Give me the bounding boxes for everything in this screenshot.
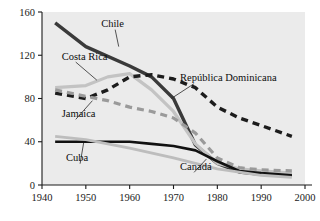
y-tick-label: 160 <box>19 7 35 18</box>
x-tick-label: 1980 <box>207 192 228 203</box>
series-label-canad: Canadá <box>180 161 212 172</box>
x-tick-label: 2000 <box>295 192 316 203</box>
y-axis-ticks: 04080120160 <box>19 7 42 191</box>
x-tick-label: 1950 <box>75 192 96 203</box>
y-tick-label: 80 <box>25 93 36 104</box>
series-label-rep-blica-dominicana: República Dominicana <box>180 72 277 83</box>
series-label-jamaica: Jamaica <box>62 108 96 119</box>
y-tick-label: 120 <box>19 50 35 61</box>
x-tick-label: 1990 <box>251 192 272 203</box>
line-chart: 04080120160 1940195019601970198019902000… <box>0 0 320 221</box>
x-tick-label: 1960 <box>119 192 140 203</box>
y-tick-label: 40 <box>25 136 36 147</box>
x-tick-label: 1940 <box>32 192 53 203</box>
series-label-costa-rica: Costa Rica <box>62 51 108 62</box>
series-label-cuba: Cuba <box>66 152 89 163</box>
y-tick-label: 0 <box>30 180 35 191</box>
chart-container: 04080120160 1940195019601970198019902000… <box>0 0 320 221</box>
x-tick-label: 1970 <box>163 192 184 203</box>
x-axis-ticks: 1940195019601970198019902000 <box>32 185 316 203</box>
series-label-chile: Chile <box>101 18 124 29</box>
